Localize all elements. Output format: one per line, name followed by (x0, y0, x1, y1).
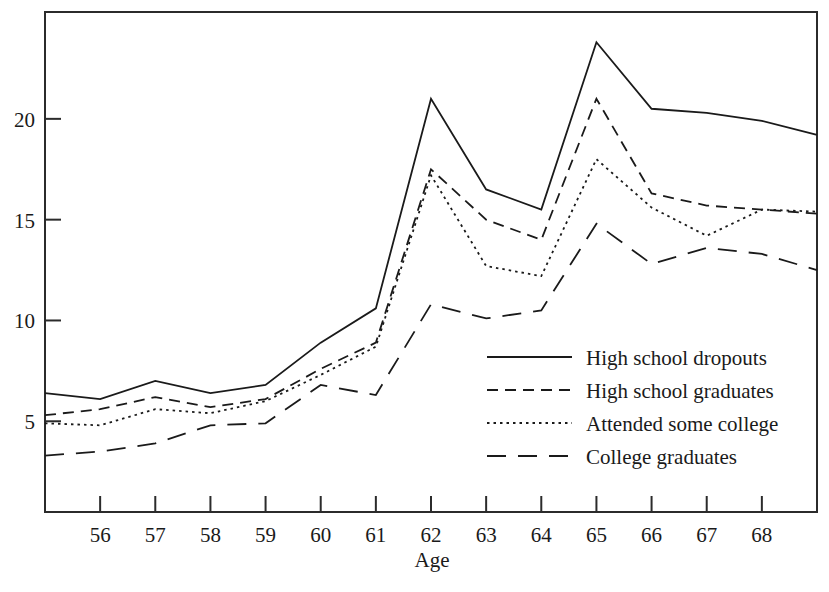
x-tick-label: 67 (696, 523, 717, 547)
x-tick-label: 61 (365, 523, 386, 547)
legend-label: High school graduates (586, 379, 774, 403)
y-tick-label: 15 (14, 209, 35, 233)
plot-frame (45, 12, 817, 512)
x-tick-label: 56 (90, 523, 111, 547)
axis-frame (45, 12, 817, 512)
x-tick-label: 59 (255, 523, 276, 547)
legend-label: College graduates (586, 445, 737, 469)
y-tick-label: 5 (25, 410, 36, 434)
y-tick-label: 20 (14, 108, 35, 132)
y-axis-ticks (45, 119, 61, 421)
x-tick-label: 68 (751, 523, 772, 547)
y-tick-label: 10 (14, 309, 35, 333)
x-tick-label: 65 (586, 523, 607, 547)
chart-container: 56575859606162636465666768 5101520 Age H… (0, 0, 829, 592)
x-tick-label: 60 (310, 523, 331, 547)
line-chart: 56575859606162636465666768 5101520 Age H… (0, 0, 829, 592)
x-tick-label: 62 (421, 523, 442, 547)
y-axis-tick-labels: 5101520 (14, 108, 35, 434)
legend-label: Attended some college (586, 412, 778, 436)
x-axis-title: Age (415, 548, 450, 572)
x-tick-label: 64 (531, 523, 553, 547)
x-tick-label: 66 (641, 523, 662, 547)
legend-label: High school dropouts (586, 346, 767, 370)
x-tick-label: 57 (145, 523, 166, 547)
x-axis-tick-labels: 56575859606162636465666768 (90, 523, 773, 547)
x-axis-ticks (100, 496, 762, 512)
chart-legend: High school dropoutsHigh school graduate… (487, 346, 778, 469)
x-tick-label: 58 (200, 523, 221, 547)
x-tick-label: 63 (476, 523, 497, 547)
